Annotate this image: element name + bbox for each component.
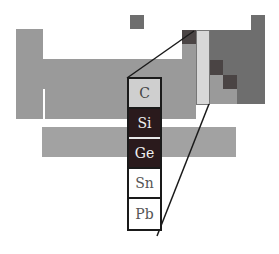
- hydrogen-cell: [130, 15, 144, 29]
- post-transition-block-2: [223, 89, 237, 104]
- element-symbol: C: [139, 85, 150, 101]
- element-cell-pb: Pb: [129, 199, 160, 229]
- metalloid-cell-2: [223, 75, 237, 89]
- element-cell-c: C: [129, 79, 160, 109]
- main-metals-block: [43, 59, 183, 119]
- element-symbol: Pb: [135, 206, 153, 222]
- lanthanide-gap-line: [43, 89, 45, 119]
- element-symbol: Ge: [135, 145, 154, 161]
- element-symbol: Sn: [135, 175, 154, 191]
- noble-gas-column: [251, 15, 265, 104]
- group-14-zoom-column: C Si Ge Sn Pb: [127, 77, 162, 231]
- post-transition-block-1: [209, 75, 223, 104]
- group-1-block: [16, 29, 43, 119]
- group-14-strip: [196, 30, 210, 105]
- boron-cell: [182, 30, 196, 44]
- element-cell-sn: Sn: [129, 169, 160, 199]
- element-cell-si: Si: [129, 109, 160, 139]
- metalloid-cell-1: [209, 60, 223, 75]
- element-cell-ge: Ge: [129, 139, 160, 169]
- element-symbol: Si: [137, 115, 151, 131]
- upper-metals-block: [182, 44, 196, 119]
